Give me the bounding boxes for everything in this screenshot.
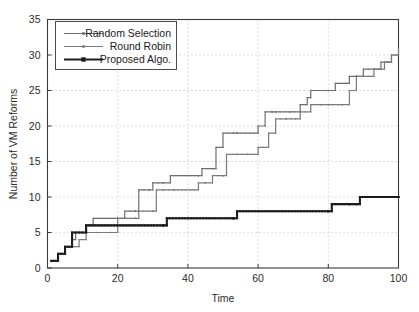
series-marker (226, 175, 227, 176)
series-marker (79, 246, 80, 247)
series-marker (178, 217, 180, 219)
series-marker (50, 260, 52, 262)
series-marker (284, 111, 285, 112)
y-tick-label: 0 (35, 262, 41, 274)
series-marker (345, 83, 346, 84)
series-marker (143, 189, 144, 190)
series-marker (385, 196, 387, 198)
series-marker (369, 196, 371, 198)
series-marker (202, 217, 204, 219)
series-marker (236, 217, 238, 219)
x-axis-title: Time (212, 292, 235, 304)
series-marker (309, 210, 311, 212)
series-marker (266, 210, 268, 212)
series-marker (254, 210, 256, 212)
series-marker (184, 217, 186, 219)
series-marker (64, 246, 66, 248)
series-marker (275, 111, 276, 112)
series-marker (242, 154, 243, 155)
series-marker (170, 182, 171, 183)
series-marker (138, 189, 139, 190)
series-marker (162, 224, 164, 226)
series-marker (258, 154, 259, 155)
series-marker (321, 104, 322, 105)
series-marker (245, 133, 246, 134)
series-marker (96, 232, 97, 233)
series-marker (222, 147, 223, 148)
series-marker (159, 224, 161, 226)
series-marker (310, 104, 311, 105)
series-marker (124, 211, 125, 212)
series-marker (363, 69, 364, 70)
series-marker (290, 118, 291, 119)
series-marker (305, 111, 306, 112)
series-marker (345, 203, 347, 205)
series-marker (156, 211, 157, 212)
series-marker (217, 175, 218, 176)
y-tick-label: 35 (29, 13, 41, 25)
chart-figure: 05101520253035 020406080100 Number of VM… (0, 0, 419, 312)
series-marker (149, 189, 150, 190)
series-marker (273, 210, 275, 212)
y-axis-title: Number of VM Reforms (7, 89, 19, 199)
series-marker (384, 62, 385, 63)
series-marker (198, 182, 199, 183)
series-marker (253, 133, 254, 134)
series-marker (247, 154, 248, 155)
series-marker (138, 224, 140, 226)
series-marker (144, 224, 146, 226)
series-marker (349, 104, 350, 105)
series-marker (135, 211, 136, 212)
series-marker (88, 224, 90, 226)
series-marker (359, 203, 361, 205)
series-marker (57, 260, 59, 262)
series-marker (327, 210, 329, 212)
series-marker (381, 196, 383, 198)
series-marker (194, 189, 195, 190)
series-marker (153, 224, 155, 226)
series-marker (307, 104, 308, 105)
series-marker (356, 90, 357, 91)
series-marker (295, 118, 296, 119)
series-marker (365, 196, 367, 198)
series-marker (286, 118, 287, 119)
x-tick-label: 20 (112, 272, 124, 284)
series-marker (398, 196, 400, 198)
series-marker (97, 224, 99, 226)
series-marker (245, 210, 247, 212)
series-marker (331, 203, 333, 205)
series-marker (318, 210, 320, 212)
series-marker (279, 210, 281, 212)
series-marker (163, 189, 164, 190)
y-tick-label: 25 (29, 84, 41, 96)
series-marker (182, 189, 183, 190)
series-marker (341, 203, 343, 205)
series-marker (337, 104, 338, 105)
series-marker (75, 232, 77, 234)
series-marker (236, 210, 238, 212)
series-marker (178, 175, 179, 176)
series-marker (321, 210, 323, 212)
series-marker (129, 211, 130, 212)
series-marker (173, 189, 174, 190)
series-marker (141, 224, 143, 226)
series-marker (375, 196, 377, 198)
series-marker (126, 218, 127, 219)
series-marker (394, 196, 396, 198)
series-marker (391, 196, 393, 198)
series-marker (199, 217, 201, 219)
series-marker (310, 90, 311, 91)
series-marker (379, 69, 380, 70)
series-marker (198, 175, 199, 176)
series-marker (233, 217, 235, 219)
series-marker (258, 133, 259, 134)
y-tick-label: 15 (29, 155, 41, 167)
series-marker (340, 83, 341, 84)
y-tick-label: 5 (35, 226, 41, 238)
series-marker (332, 104, 333, 105)
series-marker (116, 224, 118, 226)
series-marker (294, 210, 296, 212)
series-marker (201, 168, 202, 169)
series-marker (158, 182, 159, 183)
series-marker (226, 217, 228, 219)
